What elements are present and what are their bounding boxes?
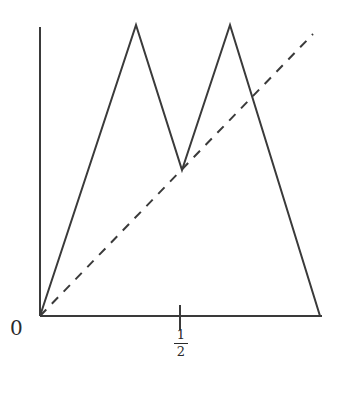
origin-label: 0 [10,316,23,340]
solid-piecewise-curve [40,25,320,316]
fraction-denominator: 2 [172,345,190,359]
dashed-diagonal [40,34,313,316]
tick-label-half: 1 2 [172,328,190,359]
fraction-numerator: 1 [172,328,190,342]
